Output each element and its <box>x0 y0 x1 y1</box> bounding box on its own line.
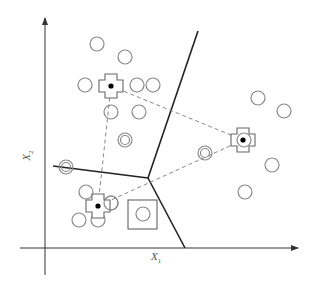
misassigned-point-inner <box>201 149 210 158</box>
centroid-2-dot <box>240 137 245 142</box>
data-point-circle <box>72 213 86 227</box>
data-point-circle <box>277 104 291 118</box>
centroid-connections <box>98 86 243 206</box>
boundary-line <box>148 31 198 178</box>
centroid-3-dot <box>95 203 100 208</box>
boundary-line <box>148 178 185 248</box>
data-point-circle <box>90 37 104 51</box>
outlier-point <box>136 207 150 221</box>
data-point-circle <box>118 50 132 64</box>
data-point-circle <box>104 105 118 119</box>
dashed-connection <box>98 86 111 206</box>
data-point-circle <box>238 185 252 199</box>
outlier-box <box>128 200 157 229</box>
boundary-line <box>53 166 148 178</box>
data-point-circle <box>130 78 144 92</box>
y-axis-label: X2 <box>20 150 35 160</box>
data-point-circle <box>132 105 146 119</box>
data-point-circle <box>251 91 265 105</box>
data-point-circle <box>79 185 93 199</box>
data-point-circle <box>78 78 92 92</box>
misassigned-point-inner <box>121 136 130 145</box>
centroid-1-dot <box>108 83 113 88</box>
data-point-circle <box>265 158 279 172</box>
kmeans-voronoi-diagram <box>0 0 316 290</box>
x-axis-label: X1 <box>151 250 161 265</box>
data-point-circle <box>146 78 160 92</box>
dashed-connection <box>98 140 243 206</box>
